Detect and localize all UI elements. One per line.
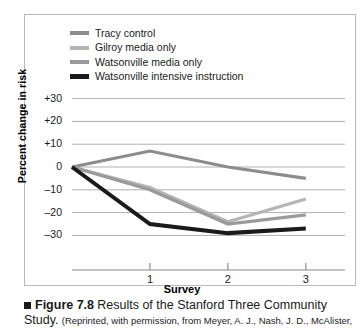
x-axis [72, 263, 345, 270]
y-axis-label: Percent change in risk [16, 66, 28, 186]
y-axis-tick-label: +20 [32, 114, 62, 126]
data-lines [72, 151, 306, 233]
series-line [72, 151, 306, 178]
y-axis-tick-label: –10 [32, 183, 62, 195]
y-axis-tick-label: +10 [32, 137, 62, 149]
y-axis-tick-label: –20 [32, 206, 62, 218]
figure-title-continued: Study. [24, 313, 59, 327]
y-axis-tick-label: 0 [32, 160, 62, 172]
figure-container: Tracy control Gilroy media only Watsonvi… [0, 0, 364, 334]
square-bullet-icon [24, 302, 31, 309]
figure-source: (Reprinted, with permission, from Meyer,… [62, 315, 352, 326]
figure-number: Figure 7.8 [35, 298, 94, 312]
x-axis-label: Survey [0, 283, 364, 295]
figure-title: Results of the Stanford Three Community [97, 298, 327, 312]
figure-caption: Figure 7.8 Results of the Stanford Three… [24, 298, 360, 328]
y-axis-tick-label: +30 [32, 92, 62, 104]
y-axis-tick-label: –30 [32, 228, 62, 240]
